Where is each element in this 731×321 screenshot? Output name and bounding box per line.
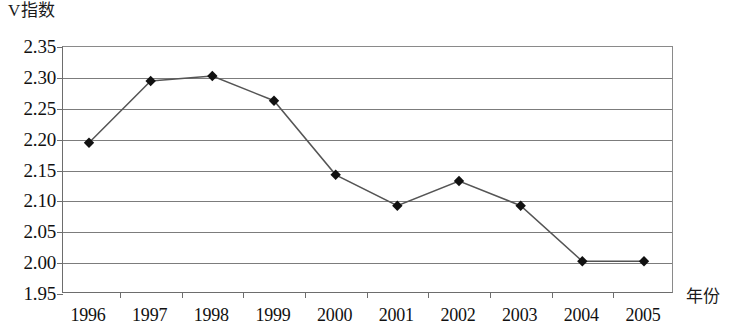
series-line — [89, 76, 644, 261]
x-tick-label: 2003 — [490, 306, 550, 321]
line-chart-figure: V指数 年份 2.352.302.252.202.152.102.052.001… — [0, 0, 731, 321]
x-tick-label: 2005 — [613, 306, 673, 321]
x-tick-label: 1999 — [243, 306, 303, 321]
x-tick-label: 2000 — [305, 306, 365, 321]
x-tick-label: 2001 — [366, 306, 426, 321]
data-point-marker — [207, 71, 217, 81]
x-tick-label: 2002 — [428, 306, 488, 321]
plot-area — [62, 46, 673, 293]
y-tick-mark — [57, 294, 63, 295]
x-tick-label: 1998 — [181, 306, 241, 321]
x-tick-label: 1997 — [120, 306, 180, 321]
data-series-v-index — [63, 47, 674, 294]
x-tick-label: 2004 — [551, 306, 611, 321]
data-point-marker — [392, 200, 402, 210]
data-point-marker — [639, 256, 649, 266]
data-point-marker — [454, 176, 464, 186]
x-tick-label: 1996 — [58, 306, 118, 321]
